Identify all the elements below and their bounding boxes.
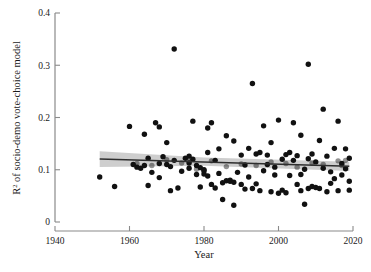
data-point xyxy=(309,151,314,156)
y-axis: 00.10.20.30.4 xyxy=(38,8,60,227)
data-point xyxy=(216,146,221,151)
data-point xyxy=(332,176,337,181)
data-point xyxy=(220,197,225,202)
data-point xyxy=(272,164,277,169)
data-point xyxy=(347,187,352,192)
data-point xyxy=(291,158,296,163)
data-point xyxy=(168,188,173,193)
data-point xyxy=(250,186,255,191)
data-point xyxy=(324,153,329,158)
y-axis-title-rest: of socio-demo vote-choice model xyxy=(11,41,22,185)
data-point xyxy=(172,46,177,51)
data-point xyxy=(246,174,251,179)
data-point xyxy=(328,169,333,174)
data-point xyxy=(257,150,262,155)
x-axis-tick-labels: 19401960198020002020 xyxy=(46,236,363,246)
data-point xyxy=(335,118,340,123)
data-point xyxy=(343,146,348,151)
data-point xyxy=(149,170,154,175)
data-point xyxy=(231,203,236,208)
data-point xyxy=(224,164,229,169)
data-point xyxy=(112,184,117,189)
data-point xyxy=(160,154,165,159)
data-point xyxy=(168,164,173,169)
data-point xyxy=(242,186,247,191)
data-point xyxy=(287,150,292,155)
x-tick-label: 2000 xyxy=(269,236,288,246)
data-point xyxy=(287,173,292,178)
x-tick-label: 1940 xyxy=(46,236,65,246)
data-point xyxy=(246,146,251,151)
data-point xyxy=(127,124,132,129)
data-point xyxy=(205,173,210,178)
x-axis-ticks xyxy=(55,226,353,231)
data-point xyxy=(186,165,191,170)
data-point xyxy=(212,185,217,190)
y-axis-tick-labels: 00.10.20.30.4 xyxy=(38,8,50,227)
data-point xyxy=(190,118,195,123)
data-point xyxy=(153,120,158,125)
data-point xyxy=(272,172,277,177)
y-axis-title-prefix: R xyxy=(11,188,22,195)
data-point xyxy=(257,188,262,193)
data-point xyxy=(347,179,352,184)
data-point xyxy=(205,125,210,130)
data-point xyxy=(294,182,299,187)
data-point xyxy=(283,190,288,195)
data-point xyxy=(216,171,221,176)
data-points xyxy=(97,46,352,208)
plot-area xyxy=(97,46,352,208)
data-point xyxy=(231,180,236,185)
data-point xyxy=(253,181,258,186)
data-point xyxy=(265,152,270,157)
data-point xyxy=(306,62,311,67)
data-point xyxy=(298,188,303,193)
data-point xyxy=(97,174,102,179)
data-point xyxy=(280,157,285,162)
x-axis: 19401960198020002020 xyxy=(46,226,363,246)
x-tick-label: 2020 xyxy=(344,236,363,246)
data-point xyxy=(149,163,154,168)
data-point xyxy=(142,163,147,168)
scatter-plot-figure: 00.10.20.30.4 19401960198020002020 Year … xyxy=(0,0,371,272)
data-point xyxy=(347,156,352,161)
data-point xyxy=(239,152,244,157)
data-point xyxy=(339,172,344,177)
data-point xyxy=(261,168,266,173)
data-point xyxy=(145,183,150,188)
x-tick-label: 1980 xyxy=(195,236,214,246)
data-point xyxy=(283,161,288,166)
data-point xyxy=(268,140,273,145)
data-point xyxy=(328,181,333,186)
data-point xyxy=(157,124,162,129)
y-tick-label: 0.4 xyxy=(38,8,50,18)
data-point xyxy=(298,172,303,177)
data-point xyxy=(291,120,296,125)
y-axis-ticks xyxy=(55,13,60,222)
data-point xyxy=(321,106,326,111)
data-point xyxy=(294,153,299,158)
data-point xyxy=(157,175,162,180)
x-axis-title: Year xyxy=(194,249,214,260)
data-point xyxy=(313,159,318,164)
y-tick-label: 0.2 xyxy=(38,113,50,123)
data-point xyxy=(298,133,303,138)
data-point xyxy=(175,185,180,190)
data-point xyxy=(302,202,307,207)
data-point xyxy=(239,182,244,187)
x-tick-label: 1960 xyxy=(120,236,139,246)
y-tick-label: 0.1 xyxy=(38,165,50,175)
data-point xyxy=(268,189,273,194)
data-point xyxy=(332,146,337,151)
data-point xyxy=(324,189,329,194)
data-point xyxy=(250,81,255,86)
data-point xyxy=(317,138,322,143)
data-point xyxy=(164,140,169,145)
data-point xyxy=(209,120,214,125)
data-point xyxy=(306,156,311,161)
data-point xyxy=(224,133,229,138)
y-axis-title: R2 of socio-demo vote-choice model xyxy=(11,41,22,195)
data-point xyxy=(335,188,340,193)
data-point xyxy=(261,123,266,128)
y-tick-label: 0 xyxy=(45,217,50,227)
